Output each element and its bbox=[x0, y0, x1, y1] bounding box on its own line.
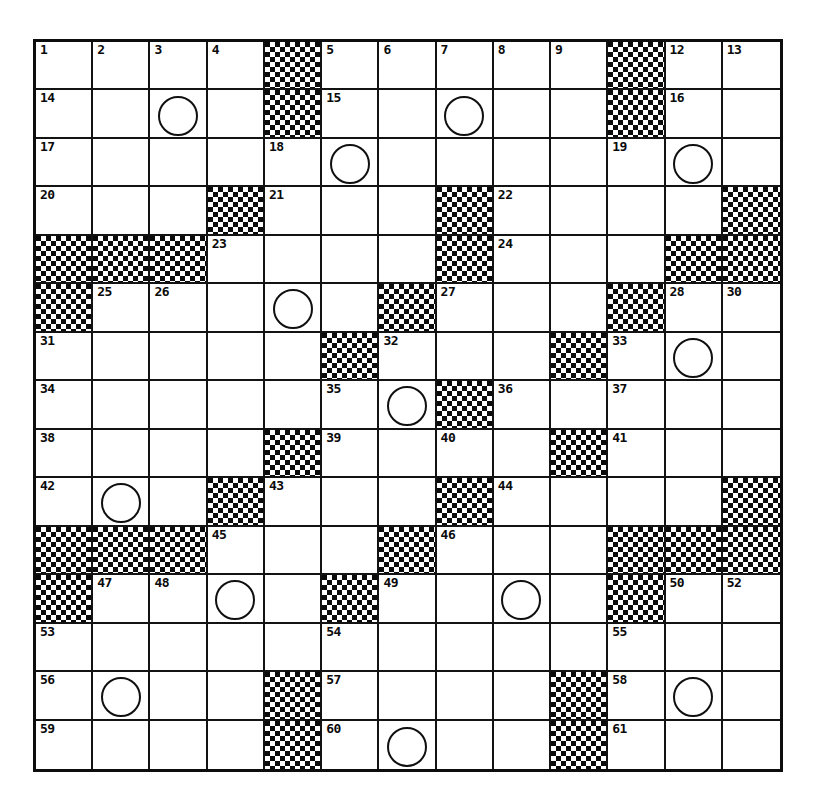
grid-cell-open[interactable] bbox=[208, 430, 265, 478]
grid-cell-open[interactable]: 46 bbox=[437, 527, 494, 575]
grid-cell-open[interactable] bbox=[93, 430, 150, 478]
crossword-grid[interactable]: 1234567891213141516171819202122232425262… bbox=[33, 39, 783, 772]
grid-cell-open[interactable]: 38 bbox=[36, 430, 93, 478]
grid-cell-circled[interactable] bbox=[379, 721, 436, 769]
grid-cell-open[interactable] bbox=[608, 187, 665, 235]
grid-cell-open[interactable]: 43 bbox=[265, 478, 322, 526]
grid-cell-open[interactable]: 54 bbox=[322, 624, 379, 672]
grid-cell-circled[interactable] bbox=[437, 90, 494, 138]
grid-cell-open[interactable] bbox=[551, 381, 608, 429]
grid-cell-open[interactable] bbox=[208, 284, 265, 332]
grid-cell-circled[interactable] bbox=[208, 575, 265, 623]
grid-cell-open[interactable]: 37 bbox=[608, 381, 665, 429]
grid-cell-open[interactable] bbox=[322, 527, 379, 575]
grid-cell-open[interactable] bbox=[150, 187, 207, 235]
grid-cell-open[interactable] bbox=[150, 139, 207, 187]
grid-cell-open[interactable]: 14 bbox=[36, 90, 93, 138]
grid-cell-open[interactable]: 19 bbox=[608, 139, 665, 187]
grid-cell-open[interactable] bbox=[494, 90, 551, 138]
grid-cell-open[interactable] bbox=[265, 333, 322, 381]
grid-cell-open[interactable] bbox=[379, 90, 436, 138]
grid-cell-circled[interactable] bbox=[494, 575, 551, 623]
grid-cell-open[interactable]: 53 bbox=[36, 624, 93, 672]
grid-cell-open[interactable] bbox=[150, 430, 207, 478]
grid-cell-open[interactable]: 13 bbox=[723, 42, 780, 90]
grid-cell-open[interactable]: 7 bbox=[437, 42, 494, 90]
grid-cell-open[interactable] bbox=[608, 236, 665, 284]
grid-cell-open[interactable] bbox=[723, 624, 780, 672]
grid-cell-open[interactable] bbox=[150, 624, 207, 672]
grid-cell-open[interactable] bbox=[379, 624, 436, 672]
grid-cell-circled[interactable] bbox=[150, 90, 207, 138]
grid-cell-open[interactable] bbox=[265, 575, 322, 623]
grid-cell-open[interactable] bbox=[551, 575, 608, 623]
grid-cell-open[interactable] bbox=[723, 430, 780, 478]
grid-cell-open[interactable] bbox=[265, 236, 322, 284]
grid-cell-open[interactable] bbox=[723, 381, 780, 429]
grid-cell-open[interactable] bbox=[322, 284, 379, 332]
grid-cell-open[interactable]: 39 bbox=[322, 430, 379, 478]
grid-cell-open[interactable]: 35 bbox=[322, 381, 379, 429]
grid-cell-open[interactable]: 3 bbox=[150, 42, 207, 90]
grid-cell-open[interactable] bbox=[93, 381, 150, 429]
grid-cell-open[interactable] bbox=[551, 478, 608, 526]
grid-cell-open[interactable] bbox=[208, 381, 265, 429]
grid-cell-open[interactable] bbox=[322, 187, 379, 235]
grid-cell-open[interactable] bbox=[494, 527, 551, 575]
grid-cell-open[interactable] bbox=[437, 721, 494, 769]
grid-cell-open[interactable]: 1 bbox=[36, 42, 93, 90]
grid-cell-open[interactable] bbox=[494, 672, 551, 720]
grid-cell-circled[interactable] bbox=[666, 333, 723, 381]
grid-cell-open[interactable] bbox=[437, 333, 494, 381]
grid-cell-open[interactable]: 58 bbox=[608, 672, 665, 720]
grid-cell-circled[interactable] bbox=[93, 672, 150, 720]
grid-cell-open[interactable] bbox=[150, 672, 207, 720]
grid-cell-open[interactable]: 59 bbox=[36, 721, 93, 769]
grid-cell-open[interactable]: 42 bbox=[36, 478, 93, 526]
grid-cell-open[interactable] bbox=[379, 672, 436, 720]
grid-cell-open[interactable] bbox=[494, 139, 551, 187]
grid-cell-open[interactable] bbox=[551, 236, 608, 284]
grid-cell-open[interactable] bbox=[208, 90, 265, 138]
grid-cell-open[interactable] bbox=[551, 139, 608, 187]
grid-cell-open[interactable] bbox=[723, 90, 780, 138]
grid-cell-open[interactable]: 56 bbox=[36, 672, 93, 720]
grid-cell-open[interactable]: 40 bbox=[437, 430, 494, 478]
grid-cell-open[interactable] bbox=[723, 672, 780, 720]
grid-cell-open[interactable]: 31 bbox=[36, 333, 93, 381]
grid-cell-open[interactable]: 8 bbox=[494, 42, 551, 90]
grid-cell-open[interactable] bbox=[93, 139, 150, 187]
grid-cell-open[interactable] bbox=[265, 381, 322, 429]
grid-cell-open[interactable] bbox=[494, 430, 551, 478]
grid-cell-open[interactable]: 36 bbox=[494, 381, 551, 429]
grid-cell-open[interactable] bbox=[93, 187, 150, 235]
grid-cell-open[interactable]: 60 bbox=[322, 721, 379, 769]
grid-cell-open[interactable] bbox=[666, 624, 723, 672]
grid-cell-open[interactable] bbox=[322, 478, 379, 526]
grid-cell-open[interactable] bbox=[666, 381, 723, 429]
grid-cell-open[interactable] bbox=[723, 721, 780, 769]
grid-cell-open[interactable] bbox=[494, 284, 551, 332]
grid-cell-open[interactable] bbox=[551, 284, 608, 332]
grid-cell-open[interactable]: 5 bbox=[322, 42, 379, 90]
grid-cell-open[interactable] bbox=[723, 333, 780, 381]
grid-cell-open[interactable]: 6 bbox=[379, 42, 436, 90]
grid-cell-open[interactable] bbox=[379, 236, 436, 284]
grid-cell-open[interactable] bbox=[150, 381, 207, 429]
grid-cell-open[interactable] bbox=[551, 624, 608, 672]
grid-cell-open[interactable] bbox=[208, 624, 265, 672]
grid-cell-open[interactable] bbox=[379, 139, 436, 187]
grid-cell-open[interactable]: 26 bbox=[150, 284, 207, 332]
grid-cell-open[interactable] bbox=[437, 139, 494, 187]
grid-cell-open[interactable]: 50 bbox=[666, 575, 723, 623]
grid-cell-open[interactable] bbox=[93, 721, 150, 769]
grid-cell-open[interactable] bbox=[666, 478, 723, 526]
grid-cell-open[interactable]: 9 bbox=[551, 42, 608, 90]
grid-cell-circled[interactable] bbox=[322, 139, 379, 187]
grid-cell-open[interactable] bbox=[723, 139, 780, 187]
grid-cell-open[interactable]: 18 bbox=[265, 139, 322, 187]
grid-cell-open[interactable]: 52 bbox=[723, 575, 780, 623]
grid-cell-open[interactable]: 49 bbox=[379, 575, 436, 623]
grid-cell-open[interactable] bbox=[494, 624, 551, 672]
grid-cell-open[interactable] bbox=[551, 90, 608, 138]
